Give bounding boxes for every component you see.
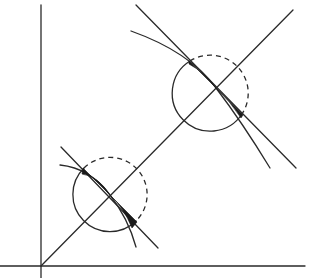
upper-tangent-line: [136, 5, 296, 168]
diagram-svg: [0, 0, 312, 278]
upper-tangency-group: [131, 5, 296, 168]
upper-wedge-left: [189, 61, 216, 88]
diagram-canvas: [0, 0, 312, 278]
lower-wedge-left: [82, 168, 110, 195]
diagonal-line: [41, 10, 293, 266]
upper-curve: [131, 31, 270, 168]
